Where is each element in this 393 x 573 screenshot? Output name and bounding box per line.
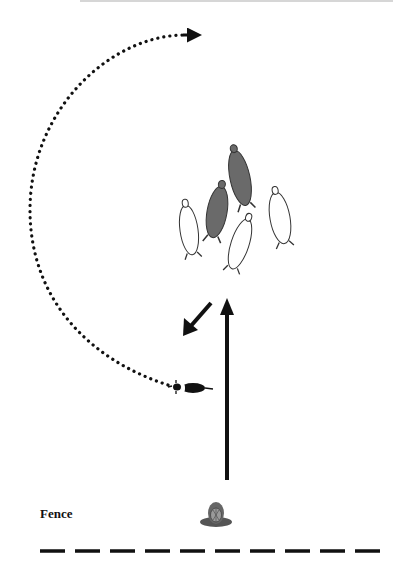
- outrun-path: [30, 35, 196, 385]
- handler-icon: [200, 502, 232, 527]
- drive-arrow: [220, 298, 234, 480]
- sheep-white-icon: [176, 198, 202, 260]
- fence-label: Fence: [40, 506, 72, 522]
- herding-diagram: [0, 0, 393, 573]
- dog-icon: [168, 380, 213, 394]
- sheep-dark-icon: [202, 179, 233, 245]
- sheep-white-icon: [222, 211, 258, 276]
- flock-movement-arrow: [183, 303, 211, 336]
- flock: [176, 143, 295, 276]
- sheep-white-icon: [265, 185, 295, 250]
- arrowhead-icon: [220, 298, 234, 315]
